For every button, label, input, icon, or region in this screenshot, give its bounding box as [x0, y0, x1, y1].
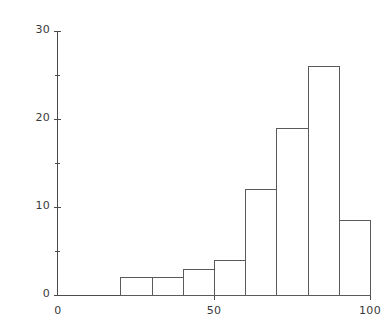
y-axis-tick — [54, 119, 61, 120]
y-axis-tick — [54, 295, 61, 296]
y-axis-tick-label: 20 — [35, 111, 50, 124]
histogram-bar — [120, 277, 152, 296]
histogram-bar — [152, 277, 184, 296]
histogram-bar — [183, 269, 215, 296]
histogram-bar — [339, 220, 371, 296]
histogram-bar — [308, 66, 340, 296]
y-axis-tick — [55, 163, 60, 164]
histogram-bar — [276, 128, 308, 296]
histogram-chart: 0102030050100 — [0, 0, 381, 330]
y-axis-tick — [54, 31, 61, 32]
x-axis-tick-label: 50 — [207, 304, 222, 317]
x-axis-tick-label: 0 — [54, 304, 61, 317]
histogram-bar — [214, 260, 246, 296]
y-axis-tick-label: 30 — [35, 23, 50, 36]
histogram-bar — [245, 189, 277, 296]
y-axis-tick-label: 10 — [35, 199, 50, 212]
x-axis-tick-label: 100 — [359, 304, 381, 317]
y-axis-tick — [55, 75, 60, 76]
y-axis-tick — [54, 207, 61, 208]
y-axis-tick-label: 0 — [43, 287, 50, 300]
y-axis-tick — [55, 251, 60, 252]
